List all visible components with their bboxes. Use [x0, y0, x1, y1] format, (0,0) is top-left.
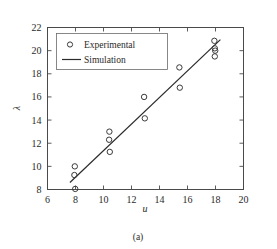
chart-legend: Experimental Simulation — [57, 34, 168, 70]
y-tick-label: 10 — [32, 161, 42, 172]
x-axis-title: u — [143, 203, 148, 214]
x-tick-label: 6 — [45, 194, 50, 205]
x-tick-label: 20 — [239, 194, 249, 205]
x-tick-label: 8 — [73, 194, 78, 205]
figure-panel: 68101214161820 810121416182022 u λ Exper… — [0, 0, 277, 249]
x-tick-label: 12 — [127, 194, 137, 205]
x-tick-label: 18 — [211, 194, 221, 205]
legend-label-simulation: Simulation — [84, 55, 126, 65]
data-point-marker — [177, 65, 182, 70]
legend-label-experimental: Experimental — [84, 40, 136, 50]
y-tick-label: 18 — [32, 68, 42, 79]
data-point-marker — [107, 129, 112, 134]
y-tick-label: 8 — [37, 184, 42, 195]
figure-caption: (a) — [133, 232, 144, 243]
data-point-marker — [106, 137, 111, 142]
y-axis-title: λ — [11, 105, 22, 111]
data-point-marker — [72, 172, 77, 177]
y-tick-label: 16 — [32, 91, 42, 102]
x-tick-label: 16 — [183, 194, 193, 205]
data-point-marker — [72, 164, 77, 169]
data-point-marker — [212, 38, 217, 43]
x-tick-label: 10 — [99, 194, 109, 205]
data-point-marker — [142, 116, 147, 121]
data-point-marker — [107, 149, 112, 154]
scatter-chart: 68101214161820 810121416182022 u λ Exper… — [0, 0, 277, 249]
y-tick-label: 14 — [32, 115, 42, 126]
y-tick-label: 12 — [32, 138, 42, 149]
x-tick-label: 14 — [155, 194, 165, 205]
data-point-marker — [141, 94, 146, 99]
y-tick-label: 20 — [32, 45, 42, 56]
y-tick-label: 22 — [32, 22, 42, 33]
data-point-marker — [177, 85, 182, 90]
data-point-marker — [212, 54, 217, 59]
